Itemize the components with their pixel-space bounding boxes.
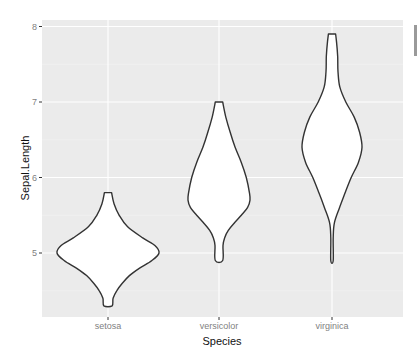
x-axis-title: Species (202, 335, 242, 347)
y-axis-title: Sepal.Length (19, 136, 31, 201)
x-tick-label-setosa: setosa (95, 321, 122, 331)
x-tick-label-versicolor: versicolor (200, 321, 239, 331)
y-tick-label: 7 (32, 97, 37, 107)
y-tick-label: 6 (32, 173, 37, 183)
x-axis: setosaversicolorvirginica (95, 317, 349, 331)
y-axis: 5678 (32, 22, 42, 259)
x-tick-label-virginica: virginica (315, 321, 348, 331)
y-tick-label: 8 (32, 22, 37, 32)
y-tick-label: 5 (32, 248, 37, 258)
violin-chart: 5678 setosaversicolorvirginica Species S… (0, 0, 417, 356)
